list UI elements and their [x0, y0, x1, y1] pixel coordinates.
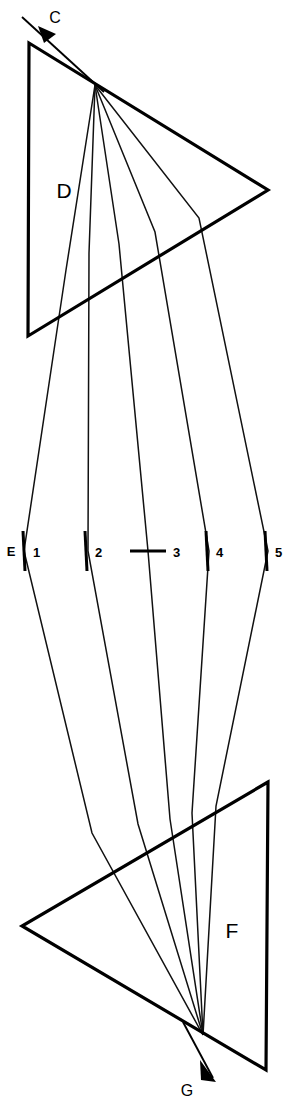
prism-upper-label: D: [56, 179, 71, 202]
ray-path-1: [24, 85, 203, 1035]
spectral-tick-4: [206, 531, 208, 571]
spectral-tick-2: [85, 531, 87, 571]
spectral-line-marker-3: 3: [130, 545, 180, 560]
spectral-line-number-4: 4: [216, 545, 224, 560]
output-beam-label: G: [181, 1082, 193, 1099]
focal-plane-group: E 1 2 3 4 5: [7, 531, 283, 571]
spectral-tick-5: [265, 531, 267, 571]
input-beam-group: C: [22, 9, 104, 92]
spectral-line-number-5: 5: [275, 545, 282, 560]
spectral-line-number-1: 1: [33, 545, 40, 560]
ray-fan-group: [24, 85, 268, 1035]
spectral-tick-1: [23, 531, 25, 571]
prism-lower-group: F: [22, 782, 268, 1070]
input-beam-label: C: [49, 9, 61, 26]
ray-path-3: [95, 85, 203, 1035]
ray-path-2: [88, 85, 203, 1035]
focal-plane-label: E: [7, 544, 16, 559]
spectral-line-number-2: 2: [95, 545, 102, 560]
prism-upper-group: D: [28, 43, 268, 336]
ray-path-4: [95, 85, 209, 1035]
prism-lower-label: F: [226, 919, 239, 942]
output-beam-group: G: [181, 1022, 216, 1099]
output-beam-arrowhead: [200, 1060, 216, 1082]
spectral-line-number-3: 3: [173, 545, 180, 560]
ray-diagram-canvas: C D F E 1: [0, 0, 288, 1110]
optical-diagram-figure: C D F E 1: [0, 0, 288, 1110]
